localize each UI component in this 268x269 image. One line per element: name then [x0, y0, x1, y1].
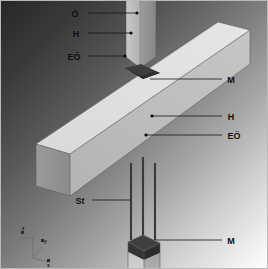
label-st: St	[76, 196, 85, 206]
axis-label-x: x	[47, 262, 50, 268]
axis-z-node	[21, 231, 24, 234]
figure-container: Ö H EÖ M H	[0, 0, 268, 269]
upper-column-side-face	[140, 0, 156, 68]
leader-dot-eo-top	[123, 54, 126, 57]
leader-dot-o	[135, 11, 138, 14]
technical-illustration: Ö H EÖ M H	[0, 0, 268, 269]
leader-dot-h-top	[129, 31, 132, 34]
label-h-top: H	[73, 29, 80, 39]
upper-column-front-face	[126, 0, 140, 68]
axis-label-y: y	[44, 238, 47, 244]
label-eo-beam: EÖ	[227, 131, 240, 141]
label-m-bottom: M	[227, 236, 235, 246]
label-m-top: M	[227, 75, 235, 85]
label-o: Ö	[71, 9, 78, 19]
leader-dot-eo-beam	[144, 133, 147, 136]
leader-dot-h-beam	[150, 114, 153, 117]
label-h-beam: H	[228, 112, 235, 122]
label-eo-top: EÖ	[67, 52, 80, 62]
